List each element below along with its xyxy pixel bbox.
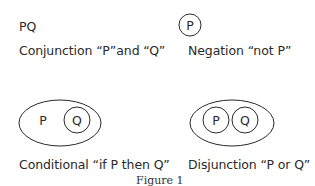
conjunction-label: Conjunction “P”and “Q”	[19, 45, 165, 58]
negation-diagram: P	[179, 14, 201, 36]
conditional-outer-ellipse	[19, 100, 101, 146]
negation-label: Negation “not P”	[188, 45, 291, 58]
conditional-inner-text: Q	[72, 113, 82, 128]
figure-caption: Figure 1	[136, 175, 184, 186]
conditional-outer-text: P	[39, 113, 47, 128]
disjunction-circle-q-text: Q	[240, 113, 250, 128]
conjunction-symbol-text: PQ	[19, 21, 36, 34]
negation-circle-p-text: P	[186, 18, 194, 33]
disjunction-label: Disjunction “P or Q”	[188, 159, 310, 172]
disjunction-diagram: P Q	[190, 100, 274, 146]
disjunction-circle-p-text: P	[212, 113, 220, 128]
conditional-label: Conditional “if P then Q”	[19, 159, 170, 172]
conditional-diagram: P Q	[19, 100, 101, 146]
